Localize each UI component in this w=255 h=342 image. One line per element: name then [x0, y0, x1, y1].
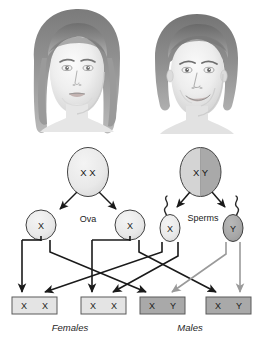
ovum-2-allele: X — [127, 221, 133, 231]
offspring-1-allele-2: X — [42, 301, 48, 311]
offspring-4-allele-2: Y — [236, 301, 242, 311]
sperm-x-allele: X — [167, 224, 173, 234]
ovum-2: X — [115, 210, 145, 240]
sperm-y-allele: Y — [230, 224, 236, 234]
offspring-4: X Y — [206, 297, 251, 314]
ova-label: Ova — [80, 214, 97, 224]
offspring-1-allele-1: X — [21, 301, 27, 311]
ovum-1-allele: X — [38, 221, 44, 231]
offspring-4-allele-1: X — [215, 301, 221, 311]
offspring-3-allele-2: Y — [170, 301, 176, 311]
offspring-1: X X — [12, 297, 57, 314]
offspring-3-allele-1: X — [149, 301, 155, 311]
offspring-2-allele-1: X — [90, 301, 96, 311]
males-label: Males — [177, 322, 203, 333]
sperms-label: Sperms — [187, 213, 219, 223]
offspring-3: X Y — [140, 297, 185, 314]
diagram-canvas: X X X Y Ova Sperms X X X Y — [0, 0, 255, 342]
parent-male-alleles: X Y — [193, 167, 209, 178]
females-label: Females — [52, 322, 89, 333]
parent-female-cell: X X — [68, 148, 109, 197]
ovum-1: X — [26, 210, 56, 240]
offspring-2: X X — [81, 297, 126, 314]
parent-female-alleles: X X — [80, 167, 96, 178]
offspring-2-allele-2: X — [111, 301, 117, 311]
